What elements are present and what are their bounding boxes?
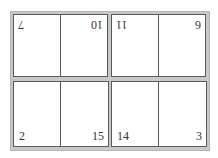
quadrant-bottom-left: 2 15 <box>13 81 109 147</box>
page-number: 10 <box>91 19 103 31</box>
page-7: 7 <box>14 15 61 76</box>
page-number: 15 <box>92 130 104 142</box>
page-number: 3 <box>196 130 202 142</box>
page-6: 6 <box>159 15 206 76</box>
page-number: 7 <box>18 19 24 31</box>
page-15: 15 <box>61 82 108 146</box>
page-number: 11 <box>116 19 128 31</box>
page-number: 6 <box>195 19 201 31</box>
page-14: 14 <box>112 82 159 146</box>
quadrant-top-left: 7 10 <box>13 14 108 77</box>
page-2: 2 <box>14 82 61 146</box>
page-3: 3 <box>159 82 206 146</box>
page-11: 11 <box>112 15 159 76</box>
page-10: 10 <box>61 15 108 76</box>
quadrant-bottom-right: 14 3 <box>111 81 207 147</box>
page-number: 14 <box>117 130 129 142</box>
quadrant-top-right: 11 6 <box>111 14 206 77</box>
page-number: 2 <box>19 130 25 142</box>
